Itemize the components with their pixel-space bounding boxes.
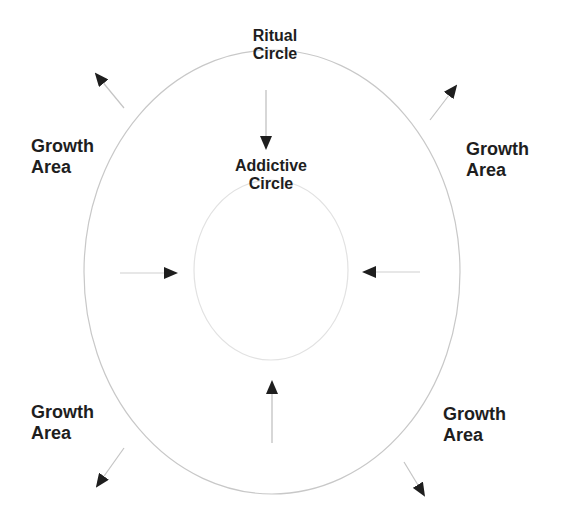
addictive-circle-outline — [194, 180, 348, 360]
growth-area-bottom-left-line1: Growth — [31, 402, 94, 423]
growth-area-top-left-line2: Area — [31, 157, 94, 178]
ritual-circle-label-line2: Circle — [230, 45, 320, 63]
ritual-circle-label-line1: Ritual — [230, 27, 320, 45]
ritual-circle-label: Ritual Circle — [230, 27, 320, 64]
growth-area-label-top-right: Growth Area — [466, 139, 529, 180]
growth-area-top-left-line1: Growth — [31, 136, 94, 157]
arrow-bottom-left-outward — [97, 448, 124, 486]
growth-area-label-bottom-left: Growth Area — [31, 402, 94, 443]
arrow-top-right-outward — [430, 86, 456, 120]
arrow-top-left-outward — [96, 74, 124, 108]
addictive-circle-label-line1: Addictive — [211, 157, 331, 175]
growth-area-top-right-line2: Area — [466, 160, 529, 181]
growth-area-top-right-line1: Growth — [466, 139, 529, 160]
growth-area-bottom-right-line1: Growth — [443, 404, 506, 425]
addictive-circle-label: Addictive Circle — [211, 157, 331, 194]
growth-area-bottom-right-line2: Area — [443, 425, 506, 446]
growth-area-label-top-left: Growth Area — [31, 136, 94, 177]
growth-area-bottom-left-line2: Area — [31, 423, 94, 444]
arrow-bottom-right-outward — [404, 462, 424, 495]
growth-area-label-bottom-right: Growth Area — [443, 404, 506, 445]
addictive-circle-label-line2: Circle — [211, 175, 331, 193]
